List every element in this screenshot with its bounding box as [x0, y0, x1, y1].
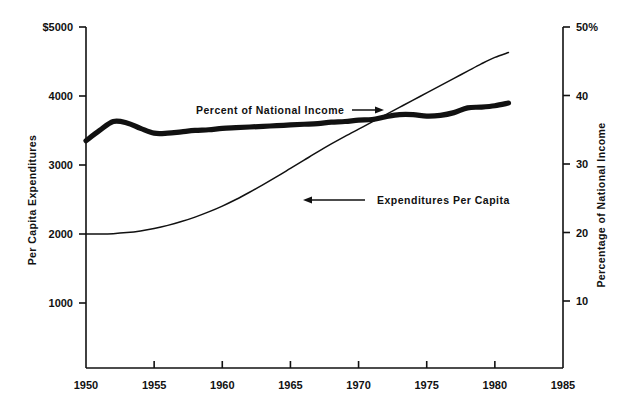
series-line-expenditures-per-capita [86, 53, 508, 234]
left-tick-label-2000: 2000 [49, 228, 73, 240]
left-tick-label-1000: 1000 [49, 297, 73, 309]
x-tick-label-1950: 1950 [74, 379, 98, 391]
annotation-label-percent-of-national-income: Percent of National Income [196, 104, 344, 116]
left-tick-label-3000: 3000 [49, 159, 73, 171]
right-tick-label-30: 30 [576, 158, 588, 170]
left-axis-tick-labels: 1000200030004000$5000 [42, 21, 73, 309]
x-tick-label-1980: 1980 [483, 379, 507, 391]
right-tick-label-50: 50% [576, 21, 598, 33]
left-axis-ticks [79, 27, 86, 303]
series-group [86, 53, 508, 234]
right-tick-label-10: 10 [576, 295, 588, 307]
x-axis-ticks [154, 361, 495, 368]
x-tick-label-1960: 1960 [210, 379, 234, 391]
right-tick-label-20: 20 [576, 227, 588, 239]
x-tick-label-1970: 1970 [346, 379, 370, 391]
x-tick-label-1965: 1965 [278, 379, 302, 391]
x-tick-label-1985: 1985 [551, 379, 575, 391]
left-tick-label-4000: 4000 [49, 90, 73, 102]
annotation-arrowhead-percent-of-national-income [375, 106, 384, 113]
chart-figure: 1000200030004000$5000 1020304050% 195019… [0, 0, 629, 411]
left-tick-label-5000: $5000 [42, 21, 73, 33]
right-tick-label-40: 40 [576, 90, 588, 102]
annotation-arrowhead-expenditures-per-capita [303, 196, 312, 203]
x-tick-label-1955: 1955 [142, 379, 166, 391]
left-axis-title: Per Capita Expenditures [26, 135, 38, 266]
right-axis-ticks [563, 27, 570, 301]
x-axis-tick-labels: 19501955196019651970197519801985 [74, 379, 575, 391]
right-axis-title: Percentage of National Income [595, 122, 607, 287]
x-tick-label-1975: 1975 [414, 379, 438, 391]
chart-canvas: 1000200030004000$5000 1020304050% 195019… [0, 0, 629, 411]
annotation-label-expenditures-per-capita: Expenditures Per Capita [377, 194, 510, 206]
